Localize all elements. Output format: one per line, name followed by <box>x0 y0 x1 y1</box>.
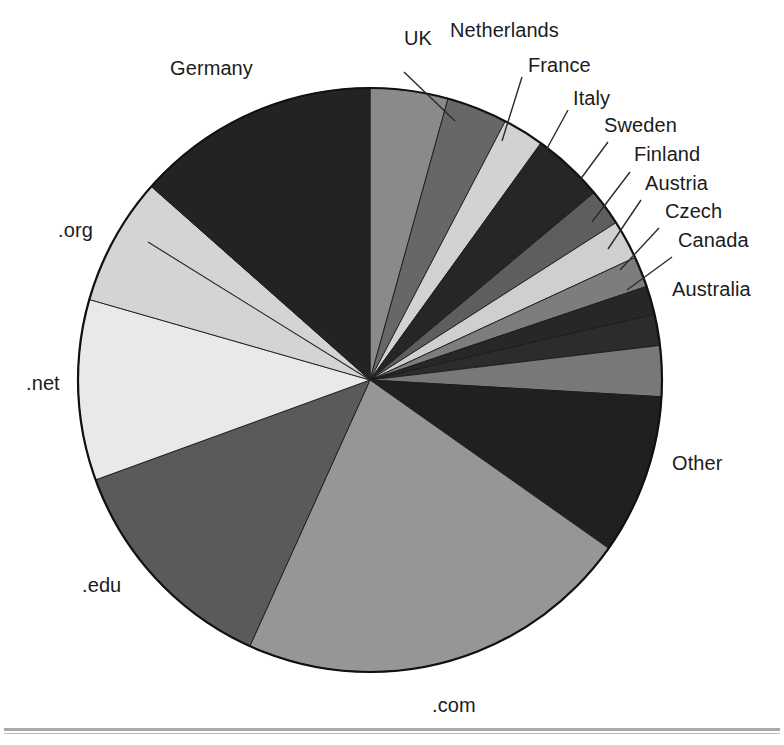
pie-label-org: .org <box>58 219 93 241</box>
pie-label-australia: Australia <box>672 278 751 300</box>
footer-divider <box>4 728 780 731</box>
pie-label-sweden: Sweden <box>604 114 677 136</box>
pie-label-italy: Italy <box>573 87 610 109</box>
pie-label-com: .com <box>432 694 476 716</box>
pie-label-uk: UK <box>404 27 432 49</box>
pie-label-france: France <box>528 54 591 76</box>
pie-label-net: .net <box>26 372 60 394</box>
pie-chart-figure: UK 4.3%Netherlands 3.4%France 2.3%Italy … <box>0 0 784 745</box>
pie-label-germany: Germany <box>170 57 253 79</box>
pie-label-edu: .edu <box>82 574 121 596</box>
pie-label-czech: Czech <box>665 200 722 222</box>
pie-chart-svg: UK 4.3%Netherlands 3.4%France 2.3%Italy … <box>0 0 784 745</box>
pie-slices-group: UK 4.3%Netherlands 3.4%France 2.3%Italy … <box>78 88 662 672</box>
pie-label-finland: Finland <box>634 143 700 165</box>
pie-label-austria: Austria <box>645 172 708 194</box>
footer-divider-secondary <box>4 733 780 734</box>
pie-label-canada: Canada <box>678 229 749 251</box>
pie-label-netherlands: Netherlands <box>450 19 559 41</box>
pie-label-other: Other <box>672 452 723 474</box>
